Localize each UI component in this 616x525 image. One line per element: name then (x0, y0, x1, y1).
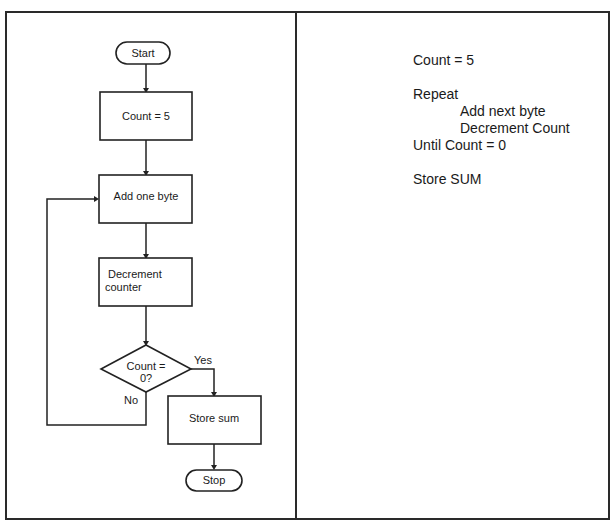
pseudocode-line: Decrement Count (460, 120, 570, 137)
start-label: Start (131, 47, 154, 59)
decrement-process-box: Decrement counter (99, 258, 192, 306)
decision-label-line2: 0? (140, 372, 152, 384)
stop-label: Stop (203, 474, 226, 486)
decrement-label-line2: counter (105, 281, 142, 293)
add-process-box: Add one byte (99, 175, 192, 223)
outer-frame (6, 12, 609, 519)
pseudocode-line: Repeat (413, 86, 458, 103)
decrement-label-line1: Decrement (108, 268, 162, 280)
store-process-box: Store sum (168, 396, 261, 444)
decision-diamond: Count = 0? (101, 345, 191, 392)
pseudocode-line: Until Count = 0 (413, 137, 506, 154)
pseudocode-line: Count = 5 (413, 52, 474, 69)
add-label: Add one byte (114, 190, 179, 202)
decision-label-line1: Count = (127, 360, 166, 372)
init-process-box: Count = 5 (100, 92, 192, 140)
stop-terminal: Stop (186, 470, 242, 491)
init-label: Count = 5 (122, 110, 170, 122)
diagram-canvas: Start Count = 5 Add one byte Decrement c… (0, 0, 616, 525)
pseudocode-line: Store SUM (413, 171, 481, 188)
yes-branch-label: Yes (194, 354, 212, 366)
no-branch-label: No (124, 394, 138, 406)
pseudocode-line: Add next byte (460, 103, 546, 120)
start-terminal: Start (116, 42, 170, 64)
store-label: Store sum (189, 412, 239, 424)
